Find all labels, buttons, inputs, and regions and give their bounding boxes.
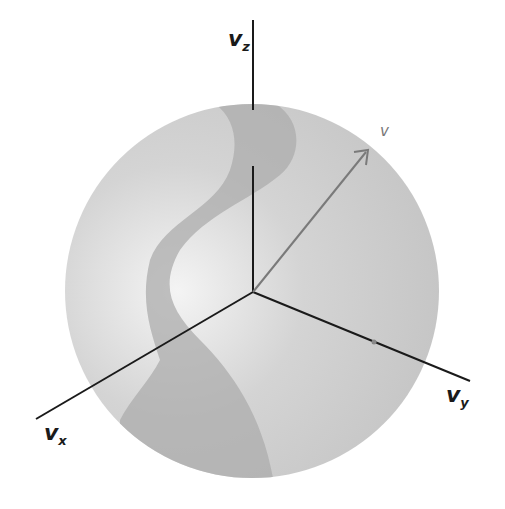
vy-label: vy xyxy=(446,382,469,410)
y-axis-mark xyxy=(372,340,377,345)
vx-label: vx xyxy=(44,420,67,448)
v-label: v xyxy=(380,122,390,140)
velocity-sphere-diagram: vz v vy vx xyxy=(0,0,505,509)
vz-label: vz xyxy=(228,26,250,54)
